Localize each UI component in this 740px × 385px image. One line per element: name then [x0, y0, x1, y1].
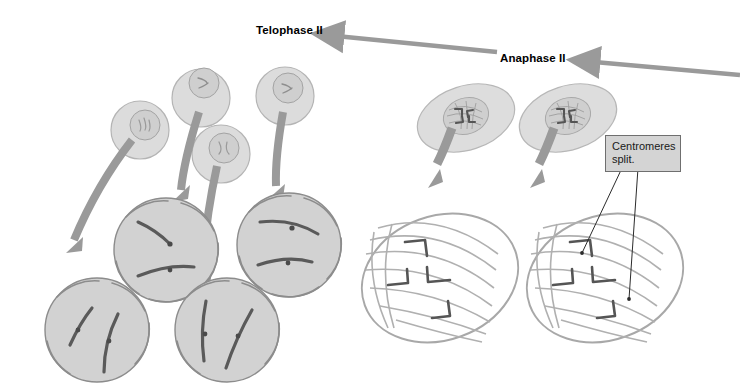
flow-arrow-anaphase-to-telophase — [572, 60, 740, 75]
anaphase-spindle-cell-left — [344, 192, 537, 363]
callout-centromeres-split: Centromeres split. — [605, 135, 681, 172]
stage-label-telophase: Telophase II — [256, 24, 323, 36]
telophase-cell-lower-right — [175, 278, 279, 382]
stage-label-anaphase: Anaphase II — [500, 52, 566, 64]
telophase-cell-upper-right — [237, 193, 341, 297]
meiosis-illustration — [0, 0, 740, 385]
diagram-canvas: Telophase II Anaphase II Centromeres spl… — [0, 0, 740, 385]
daughter-cell-3 — [192, 125, 250, 183]
anaphase-cell-left — [409, 72, 524, 164]
anaphase-spindle-cell-right — [509, 192, 702, 363]
flow-arrow-to-telophase-label — [316, 34, 497, 52]
callout-text: Centromeres split. — [612, 140, 675, 166]
telophase-cell-lower-left — [45, 278, 149, 382]
arrow-daughter4-down — [267, 112, 285, 200]
anaphase-cell-group — [409, 72, 626, 188]
